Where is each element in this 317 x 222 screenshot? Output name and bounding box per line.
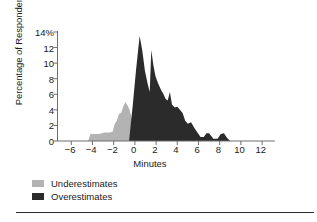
legend-label-overestimates: Overestimates <box>51 191 112 202</box>
legend-label-underestimates: Underestimates <box>51 178 118 189</box>
legend-item-overestimates: Overestimates <box>32 190 118 202</box>
legend-swatch-underestimates <box>32 180 44 187</box>
chart-figure: Percentage of Respondents 14% 12 10 8 6 … <box>0 0 317 222</box>
area-series-underestimates <box>88 102 135 141</box>
area-series-overestimates <box>129 36 230 141</box>
legend-item-underestimates: Underestimates <box>32 177 118 189</box>
series-layer <box>88 36 230 141</box>
legend-swatch-overestimates <box>32 193 44 200</box>
chart-legend: Underestimates Overestimates <box>32 177 118 203</box>
footer-divider <box>16 212 314 213</box>
